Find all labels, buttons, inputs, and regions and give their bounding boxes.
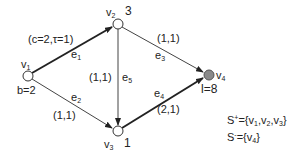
edge-e1-name: e1 — [71, 49, 81, 60]
node-v4-annotation: l=8 — [201, 84, 217, 95]
node-v3 — [113, 126, 123, 136]
edge-e2-weight: (1,1) — [53, 110, 76, 121]
set-s-minus: S-={v4} — [227, 132, 260, 143]
node-v1-label: v1 — [21, 59, 30, 70]
node-v4 — [204, 70, 214, 80]
edge-e1-weight: (c=2,τ=1) — [28, 34, 73, 45]
node-v4-label: v4 — [216, 70, 225, 81]
edge-e4-weight: (2,1) — [157, 104, 180, 115]
edge-e3-name: e3 — [155, 50, 165, 61]
node-v2 — [113, 19, 123, 29]
edge-e4-name: e4 — [154, 88, 164, 99]
edge-e2-name: e2 — [71, 92, 81, 103]
edge-e5-weight: (1,1) — [89, 72, 112, 83]
edge-e3-weight: (1,1) — [157, 33, 180, 44]
edge-e5-name: e5 — [122, 72, 132, 83]
node-v3-label: v3 — [104, 139, 113, 150]
graph-canvas — [0, 0, 307, 154]
node-v2-annotation: 3 — [125, 6, 132, 17]
node-v2-label: v2 — [106, 7, 115, 18]
node-v1 — [23, 71, 33, 81]
set-s-plus: S+={v1,v2,v3} — [227, 115, 287, 126]
node-v1-annotation: b=2 — [17, 85, 36, 96]
node-v3-annotation: 1 — [124, 138, 131, 149]
